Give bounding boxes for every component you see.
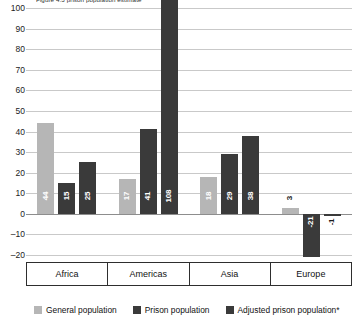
bar-slot: 25	[79, 8, 96, 255]
bar-value-label: 41	[144, 192, 152, 201]
bar-set: 3-21-1	[271, 8, 353, 255]
legend-swatch-icon	[226, 306, 234, 314]
bar-groups: 44152517411081829383-21-1	[26, 8, 352, 255]
bar-value-label: 18	[205, 192, 213, 201]
bar-slot: 44	[37, 8, 54, 255]
bar-value-label: 38	[247, 192, 255, 201]
bar[interactable]	[140, 129, 157, 213]
legend-item[interactable]: Prison population	[133, 305, 210, 315]
bar-slot: 41	[140, 8, 157, 255]
bar[interactable]	[282, 208, 299, 214]
legend-label: Prison population	[145, 305, 210, 315]
bar-slot: 15	[58, 8, 75, 255]
bar-value-label: 15	[63, 192, 71, 201]
y-tick-label: 80	[0, 44, 25, 54]
y-tick-label: 40	[0, 127, 25, 137]
y-tick-label: 20	[0, 168, 25, 178]
bar-slot: 108	[161, 8, 178, 255]
category-label-europe: Europe	[271, 263, 351, 285]
bar[interactable]	[221, 154, 238, 214]
y-tick-label: 10	[0, 188, 25, 198]
bar-group: 182938	[189, 8, 271, 255]
legend-item[interactable]: General population	[34, 305, 117, 315]
bar-value-label: 17	[123, 192, 131, 201]
y-tick-label: 70	[0, 65, 25, 75]
bar[interactable]	[242, 136, 259, 214]
chart-legend: General populationPrison populationAdjus…	[26, 302, 352, 318]
bar-set: 1741108	[108, 8, 190, 255]
legend-item[interactable]: Adjusted prison population*	[226, 305, 340, 315]
bar-value-label: 108	[165, 189, 173, 202]
bar-slot: 38	[242, 8, 259, 255]
chart-container: Figure 4.3 prison population estimate 44…	[0, 0, 357, 329]
bar-value-label: 25	[84, 192, 92, 201]
category-label-africa: Africa	[27, 263, 108, 285]
bar-group: 1741108	[108, 8, 190, 255]
bar-slot: 17	[119, 8, 136, 255]
category-label-asia: Asia	[190, 263, 271, 285]
legend-swatch-icon	[133, 306, 141, 314]
category-axis: AfricaAmericasAsiaEurope	[26, 262, 352, 286]
bar[interactable]	[79, 162, 96, 213]
bar-set: 182938	[189, 8, 271, 255]
legend-swatch-icon	[34, 306, 42, 314]
bar-slot: -1	[324, 8, 341, 255]
category-label-americas: Americas	[108, 263, 189, 285]
y-tick-label: –10	[0, 229, 25, 239]
legend-label: Adjusted prison population*	[238, 305, 340, 315]
y-tick-label: 100	[0, 3, 25, 13]
bar-value-label: -1	[328, 218, 336, 225]
y-tick-label: 0	[0, 209, 25, 219]
bar-group: 3-21-1	[271, 8, 353, 255]
bar-value-label: 29	[226, 192, 234, 201]
y-tick-label: 50	[0, 106, 25, 116]
bar-value-label: 3	[286, 196, 294, 200]
y-tick-label: 60	[0, 85, 25, 95]
bar-slot: 29	[221, 8, 238, 255]
y-tick-label: –20	[0, 250, 25, 260]
bar-group: 441525	[26, 8, 108, 255]
bar-set: 441525	[26, 8, 108, 255]
bar-slot: -21	[303, 8, 320, 255]
bar-slot: 18	[200, 8, 217, 255]
y-tick-label: 30	[0, 147, 25, 157]
bar-value-label: -21	[307, 216, 315, 227]
bar-slot: 3	[282, 8, 299, 255]
legend-label: General population	[46, 305, 117, 315]
chart-title: Figure 4.3 prison population estimate	[36, 0, 142, 4]
bar-value-label: 44	[42, 192, 50, 201]
plot-area: 44152517411081829383-21-1	[26, 8, 352, 255]
bar[interactable]	[161, 0, 178, 214]
bar[interactable]	[324, 214, 341, 216]
y-tick-label: 90	[0, 24, 25, 34]
